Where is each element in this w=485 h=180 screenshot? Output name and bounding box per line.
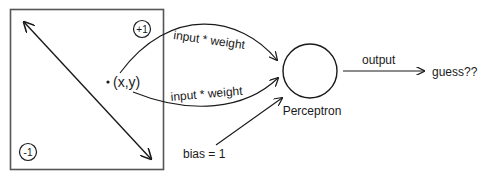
bias-label: bias = 1	[183, 147, 226, 161]
input-top-label: input * weight	[173, 28, 247, 52]
point-label: (x,y)	[113, 74, 140, 90]
minus-one-label: -1	[24, 147, 33, 158]
output-label: output	[362, 53, 396, 67]
perceptron-label: Perceptron	[283, 104, 342, 118]
guess-label: guess??	[432, 65, 478, 79]
point-dot-icon	[106, 80, 109, 83]
input-bottom-label: input * weight	[170, 84, 244, 104]
decision-line-icon	[24, 22, 151, 159]
plus-one-badge: +1	[134, 21, 151, 38]
perceptron-node	[283, 44, 337, 98]
plus-one-label: +1	[136, 24, 148, 35]
perceptron-diagram: +1 -1 (x,y) input * weight input * weigh…	[0, 0, 485, 180]
minus-one-badge: -1	[20, 144, 37, 161]
bias-arrow	[216, 98, 282, 145]
